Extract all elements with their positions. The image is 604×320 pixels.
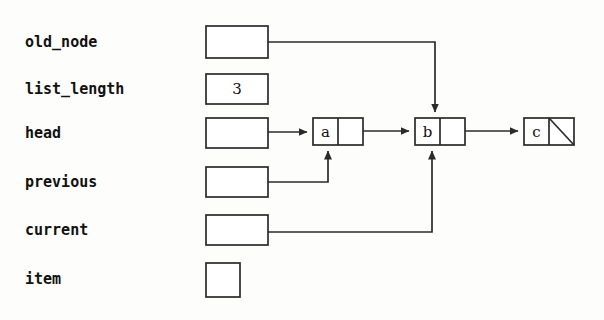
node-a-value: a xyxy=(313,125,338,140)
var-box-old-node xyxy=(206,26,268,58)
var-label-head: head xyxy=(25,126,61,141)
node-b-value: b xyxy=(415,125,440,140)
var-label-current: current xyxy=(25,223,88,238)
var-label-old-node: old_node xyxy=(25,35,97,50)
diagram-canvas: old_node list_length head previous curre… xyxy=(0,0,604,320)
var-label-previous: previous xyxy=(25,175,97,190)
var-label-list-length: list_length xyxy=(25,82,124,97)
var-box-head xyxy=(206,118,268,148)
var-box-previous xyxy=(206,167,268,197)
node-c-value: c xyxy=(524,125,549,140)
pointer-previous-to-a xyxy=(268,151,328,182)
var-value-list-length: 3 xyxy=(206,82,268,97)
var-box-item xyxy=(206,263,240,297)
pointer-old-node-to-b xyxy=(268,42,435,112)
pointer-current-to-b xyxy=(268,151,432,232)
var-label-item: item xyxy=(25,272,61,287)
var-box-current xyxy=(206,215,268,245)
